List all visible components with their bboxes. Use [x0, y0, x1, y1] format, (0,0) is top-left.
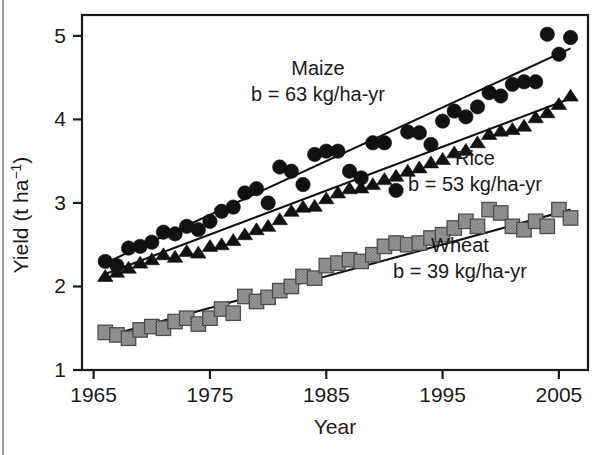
x-axis-ticks: 19651975198519952005: [70, 370, 582, 406]
y-axis-title-paren: ): [9, 157, 32, 164]
rice-slope-label: b = 53 kg/ha-yr: [408, 173, 542, 195]
y-tick-label-2: 2: [54, 274, 66, 297]
rice-label: Rice: [455, 147, 495, 169]
x-tick-label-1965: 1965: [70, 383, 117, 406]
data-point-maize-2005: [552, 47, 566, 61]
data-point-wheat-2004: [540, 219, 554, 233]
y-axis-title: Yield (t ha−1): [8, 157, 32, 274]
data-point-rice-2006: [563, 89, 578, 101]
data-point-rice-1980: [260, 219, 275, 231]
y-axis-title-superscript: −1: [8, 163, 24, 179]
data-point-maize-1991: [389, 183, 403, 197]
maize-label: Maize: [291, 57, 344, 79]
data-point-maize-1983: [296, 177, 310, 191]
data-point-maize-1993: [412, 126, 426, 140]
x-tick-label-1975: 1975: [187, 383, 234, 406]
data-point-maize-1990: [377, 136, 391, 150]
y-tick-label-5: 5: [54, 24, 66, 47]
x-tick-label-2005: 2005: [536, 383, 583, 406]
data-point-maize-1982: [284, 164, 298, 178]
wheat-label: Wheat: [431, 234, 489, 256]
x-axis-title: Year: [314, 415, 356, 438]
data-point-maize-1975: [203, 214, 217, 228]
maize-slope-label: b = 63 kg/ha-yr: [251, 83, 385, 105]
y-axis-title-text: Yield (t ha: [9, 179, 32, 273]
data-point-maize-1995: [435, 114, 449, 128]
page-edge-rule: [2, 0, 4, 455]
data-point-maize-1986: [331, 144, 345, 158]
data-point-rice-1974: [191, 246, 206, 258]
data-point-maize-2006: [563, 30, 577, 44]
data-point-maize-1980: [261, 196, 275, 210]
data-point-maize-1970: [145, 235, 159, 249]
data-point-maize-1977: [226, 200, 240, 214]
data-point-maize-2003: [528, 75, 542, 89]
data-point-rice-1995: [435, 153, 450, 165]
data-point-wheat-2006: [563, 211, 577, 225]
y-tick-label-1: 1: [54, 358, 66, 381]
yield-trend-scatter-chart: 12345 19651975198519952005 Yield (t ha−1…: [0, 0, 612, 455]
x-tick-label-1995: 1995: [419, 383, 466, 406]
x-tick-label-1985: 1985: [303, 383, 350, 406]
y-tick-label-4: 4: [54, 107, 66, 130]
svg-text:Yield (t ha−1): Yield (t ha−1): [8, 157, 32, 274]
figure-container: 12345 19651975198519952005 Yield (t ha−1…: [0, 0, 612, 455]
data-point-maize-1979: [249, 182, 263, 196]
data-point-maize-2004: [540, 27, 554, 41]
data-point-maize-1997: [459, 110, 473, 124]
data-point-maize-2000: [494, 89, 508, 103]
data-point-wheat-1998: [470, 219, 484, 233]
data-point-wheat-2000: [494, 206, 508, 220]
y-axis-ticks: 12345: [54, 24, 82, 381]
wheat-slope-label: b = 39 kg/ha-yr: [393, 260, 527, 282]
y-tick-label-3: 3: [54, 191, 66, 214]
data-point-wheat-1977: [226, 306, 240, 320]
data-point-maize-1998: [470, 100, 484, 114]
